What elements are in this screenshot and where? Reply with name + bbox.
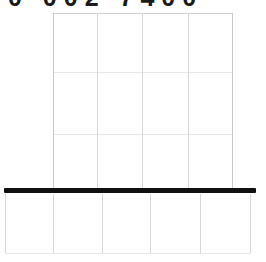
upper-grid-vline-1 bbox=[97, 13, 98, 192]
clipped-header-text: 0 002 7400 bbox=[8, 0, 203, 11]
lower-grid-vline-0 bbox=[5, 194, 6, 253]
thick-horizontal-rule bbox=[4, 188, 256, 193]
upper-grid-vline-3 bbox=[188, 13, 189, 192]
upper-grid-vline-2 bbox=[142, 13, 143, 192]
lower-grid-vline-1 bbox=[53, 194, 54, 253]
screenshot-canvas: 0 002 7400 bbox=[0, 0, 266, 262]
upper-grid-vline-4 bbox=[232, 13, 233, 192]
upper-grid-top-border bbox=[53, 13, 233, 14]
clipped-header-row: 0 002 7400 bbox=[0, 0, 266, 11]
lower-grid-vline-4 bbox=[200, 194, 201, 253]
upper-grid-hline-2 bbox=[53, 134, 233, 135]
lower-grid-vline-5 bbox=[250, 194, 251, 253]
lower-grid-bottom-border bbox=[5, 253, 251, 254]
lower-grid-vline-2 bbox=[102, 194, 103, 253]
lower-grid-vline-3 bbox=[150, 194, 151, 253]
upper-grid-vline-0 bbox=[53, 13, 54, 192]
upper-grid-hline-1 bbox=[53, 72, 233, 73]
